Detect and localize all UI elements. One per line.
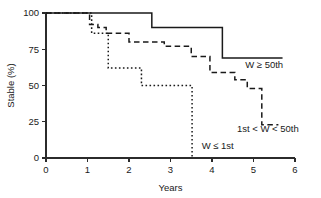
x-axis-title: Years <box>159 182 183 193</box>
series-curve-dashed <box>46 13 278 125</box>
series-annotation: W ≥ 50th <box>245 59 283 70</box>
x-tick-label: 0 <box>43 164 48 175</box>
series-annotation: W ≤ 1st <box>202 140 234 151</box>
x-tick-label: 4 <box>209 164 214 175</box>
x-tick-label: 3 <box>168 164 173 175</box>
x-tick-label: 2 <box>126 164 131 175</box>
x-tick-label: 1 <box>85 164 90 175</box>
y-tick-label: 0 <box>34 152 39 163</box>
survival-chart: 02550751000123456YearsStable (%)W ≥ 50th… <box>0 0 321 198</box>
y-tick-label: 75 <box>28 44 39 55</box>
x-tick-label: 6 <box>292 164 297 175</box>
y-tick-label: 100 <box>23 7 39 18</box>
series-annotation: 1st < W < 50th <box>237 123 299 134</box>
series-curve-dotted <box>46 13 192 158</box>
y-tick-label: 50 <box>28 80 39 91</box>
series-curve-solid <box>46 13 283 58</box>
y-axis-title: Stable (%) <box>5 63 16 107</box>
chart-canvas: 02550751000123456YearsStable (%)W ≥ 50th… <box>0 0 321 198</box>
y-tick-label: 25 <box>28 116 39 127</box>
x-tick-label: 5 <box>251 164 256 175</box>
